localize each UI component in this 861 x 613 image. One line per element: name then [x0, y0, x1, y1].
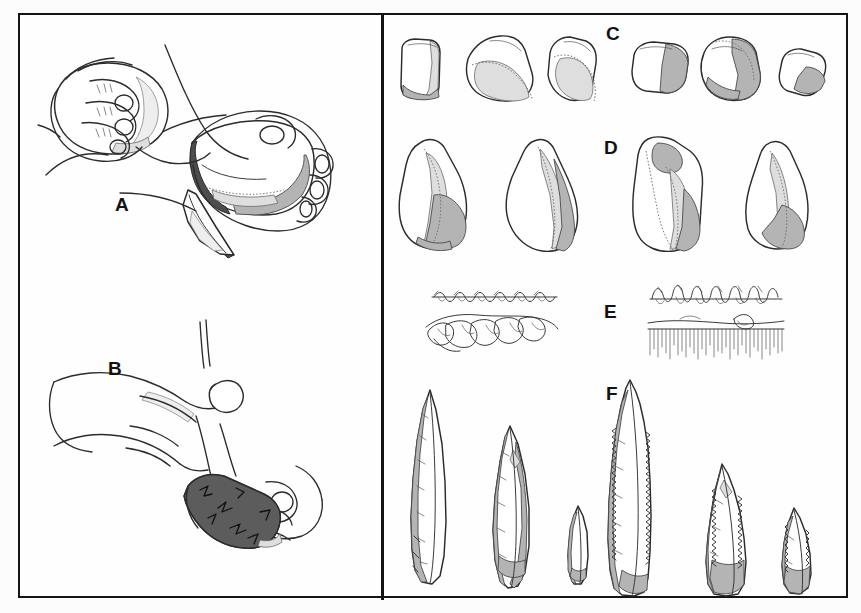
edge-profile-e3: [426, 315, 558, 352]
tool-d2: [506, 139, 577, 251]
point-f4: [608, 380, 651, 596]
panel-b-illustration: B: [20, 296, 379, 596]
panel-d-label: D: [604, 137, 618, 158]
tool-d4: [746, 142, 808, 249]
flake-c2: [466, 36, 532, 101]
edge-profile-e1: [432, 291, 557, 302]
row-f-points: F: [382, 370, 848, 600]
flake-c3: [548, 37, 596, 101]
row-c-flakes: C: [382, 15, 848, 120]
panel-a-illustration: A: [20, 15, 379, 315]
lower-hand-with-core: [184, 416, 322, 548]
edge-profile-e2: [650, 285, 782, 304]
point-f2: [493, 426, 529, 588]
tool-d1: [399, 140, 466, 251]
striation-hatching: [650, 329, 782, 359]
panel-b-label: B: [108, 358, 122, 379]
punch-rod: [200, 320, 210, 368]
point-f1: [411, 390, 446, 584]
row-e-microwear: E: [382, 273, 848, 363]
point-f5: [706, 464, 746, 596]
point-f3: [568, 506, 588, 584]
flake-c1: [401, 39, 440, 100]
flake-c6: [779, 49, 825, 96]
tool-d3: [633, 137, 703, 251]
point-f6: [782, 508, 811, 594]
panel-a-label: A: [115, 194, 129, 215]
flake-c4: [632, 42, 688, 93]
upper-hand-with-punch: [50, 373, 244, 471]
figure-root: A: [0, 0, 861, 613]
edge-profile-e4: [648, 315, 784, 360]
panel-e-label: E: [604, 301, 617, 322]
left-panel: A: [20, 15, 379, 596]
panel-c-label: C: [606, 23, 620, 44]
row-d-tools: D: [382, 123, 848, 263]
flake-c5: [701, 37, 760, 100]
right-panel: C: [382, 15, 848, 596]
panel-f-label: F: [606, 383, 618, 404]
